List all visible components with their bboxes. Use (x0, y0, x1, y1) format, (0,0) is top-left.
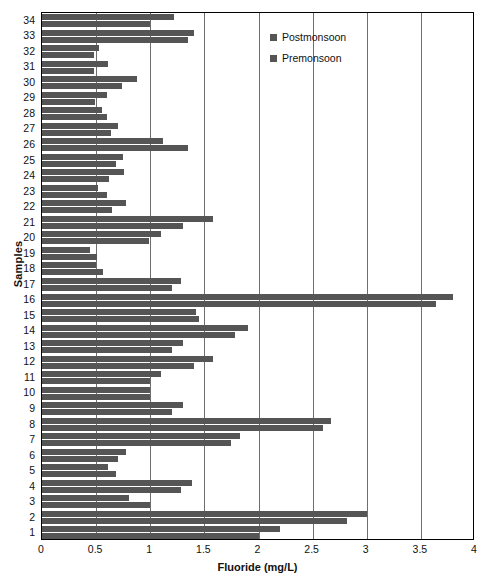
y-tick-label: 4 (29, 481, 35, 491)
bar-row (42, 261, 473, 277)
bar-postmonsoon (42, 30, 194, 36)
bar-postmonsoon (42, 433, 240, 439)
x-tick-label: 2 (255, 543, 261, 555)
y-tick-label: 15 (23, 310, 35, 320)
bar-row (42, 510, 473, 526)
x-axis-tick-labels: 00.511.522.533.54 (0, 543, 489, 559)
bar-premonsoon (42, 409, 172, 415)
bar-rows (42, 13, 473, 539)
bar-postmonsoon (42, 371, 161, 377)
bar-row (42, 324, 473, 340)
y-tick-label: 24 (23, 170, 35, 180)
bar-postmonsoon (42, 402, 183, 408)
bar-premonsoon (42, 533, 259, 539)
y-tick-label: 20 (23, 232, 35, 242)
bar-premonsoon (42, 332, 235, 338)
bar-row (42, 230, 473, 246)
bar-row (42, 293, 473, 309)
bar-premonsoon (42, 394, 150, 400)
y-tick-label: 11 (24, 372, 35, 382)
bar-premonsoon (42, 130, 111, 136)
x-tick-label: 0 (38, 543, 44, 555)
x-tick-label: 2.5 (304, 543, 319, 555)
bar-postmonsoon (42, 231, 161, 237)
bar-premonsoon (42, 99, 95, 105)
y-tick-label: 14 (23, 325, 35, 335)
bar-premonsoon (42, 68, 94, 74)
bar-row (42, 75, 473, 91)
y-tick-label: 23 (23, 186, 35, 196)
bar-postmonsoon (42, 526, 280, 532)
y-tick-label: 16 (23, 294, 35, 304)
x-axis-title: Fluoride (mg/L) (41, 561, 474, 573)
bar-row (42, 60, 473, 76)
bar-premonsoon (42, 487, 181, 493)
bar-premonsoon (42, 316, 199, 322)
y-tick-label: 10 (23, 387, 35, 397)
y-tick-label: 28 (23, 108, 35, 118)
bar-premonsoon (42, 363, 194, 369)
chart-figure: Samples 12345678910111213141516171819202… (0, 0, 489, 581)
bar-premonsoon (42, 471, 116, 477)
legend-item: Premonsoon (270, 52, 346, 64)
bar-premonsoon (42, 192, 107, 198)
bar-postmonsoon (42, 138, 163, 144)
y-tick-label: 27 (23, 123, 35, 133)
bar-row (42, 168, 473, 184)
legend-label: Premonsoon (282, 52, 342, 64)
bar-postmonsoon (42, 154, 123, 160)
bar-row (42, 386, 473, 402)
bar-postmonsoon (42, 61, 108, 67)
bar-premonsoon (42, 301, 436, 307)
y-tick-label: 12 (23, 356, 35, 366)
bar-premonsoon (42, 254, 97, 260)
bar-postmonsoon (42, 464, 108, 470)
bar-premonsoon (42, 502, 150, 508)
bar-premonsoon (42, 518, 347, 524)
bar-row (42, 355, 473, 371)
y-axis-tick-labels: 1234567891011121314151617181920212223242… (0, 12, 39, 540)
y-tick-label: 31 (23, 61, 35, 71)
bar-premonsoon (42, 176, 109, 182)
x-tick-label: 1 (146, 543, 152, 555)
legend-swatch-icon (270, 34, 277, 41)
bar-postmonsoon (42, 14, 174, 20)
bar-premonsoon (42, 269, 103, 275)
y-tick-label: 2 (29, 512, 35, 522)
bar-postmonsoon (42, 45, 99, 51)
bar-row (42, 246, 473, 262)
bar-premonsoon (42, 114, 107, 120)
bar-postmonsoon (42, 216, 213, 222)
bar-row (42, 13, 473, 29)
y-tick-label: 21 (23, 217, 35, 227)
bar-postmonsoon (42, 309, 196, 315)
x-tick-label: 3.5 (413, 543, 428, 555)
y-tick-label: 32 (23, 46, 35, 56)
bar-postmonsoon (42, 92, 107, 98)
y-tick-label: 22 (23, 201, 35, 211)
plot-area: PostmonsoonPremonsoon (41, 12, 474, 540)
bar-row (42, 44, 473, 60)
legend-item: Postmonsoon (270, 31, 346, 43)
y-tick-label: 9 (29, 403, 35, 413)
legend: PostmonsoonPremonsoon (270, 31, 346, 73)
y-tick-label: 13 (23, 341, 35, 351)
bar-postmonsoon (42, 278, 181, 284)
bar-postmonsoon (42, 387, 150, 393)
bar-premonsoon (42, 21, 150, 27)
x-tick-label: 3 (363, 543, 369, 555)
bar-premonsoon (42, 238, 149, 244)
y-tick-label: 3 (29, 496, 35, 506)
bar-premonsoon (42, 161, 116, 167)
bar-premonsoon (42, 456, 118, 462)
bar-row (42, 184, 473, 200)
bar-row (42, 277, 473, 293)
bar-premonsoon (42, 425, 323, 431)
y-tick-label: 19 (23, 248, 35, 258)
y-tick-label: 26 (23, 139, 35, 149)
bar-postmonsoon (42, 340, 183, 346)
x-tick-label: 1.5 (196, 543, 211, 555)
bar-row (42, 432, 473, 448)
bar-row (42, 370, 473, 386)
bar-postmonsoon (42, 325, 248, 331)
